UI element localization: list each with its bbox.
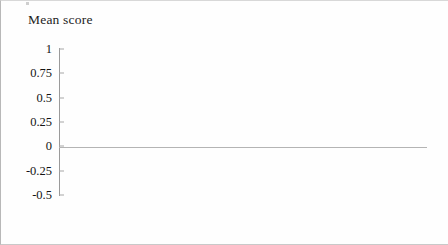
- scan-artifact-speck: [26, 2, 29, 5]
- y-axis-title: Mean score: [28, 12, 93, 28]
- y-axis-tick-label: 0: [46, 139, 59, 154]
- y-axis-tick-label: 1: [46, 42, 59, 57]
- y-axis-tick-label: 0.25: [30, 115, 59, 130]
- y-axis-tick-label: 0.5: [36, 90, 59, 105]
- y-axis-tick-label: -0.25: [26, 163, 59, 178]
- y-axis-tick-label: 0.75: [30, 66, 59, 81]
- plot-area: [59, 49, 427, 195]
- y-axis-tick-label: -0.5: [32, 188, 59, 203]
- bar-chart-figure: Mean score 10.750.50.250-0.25-0.5: [0, 0, 448, 245]
